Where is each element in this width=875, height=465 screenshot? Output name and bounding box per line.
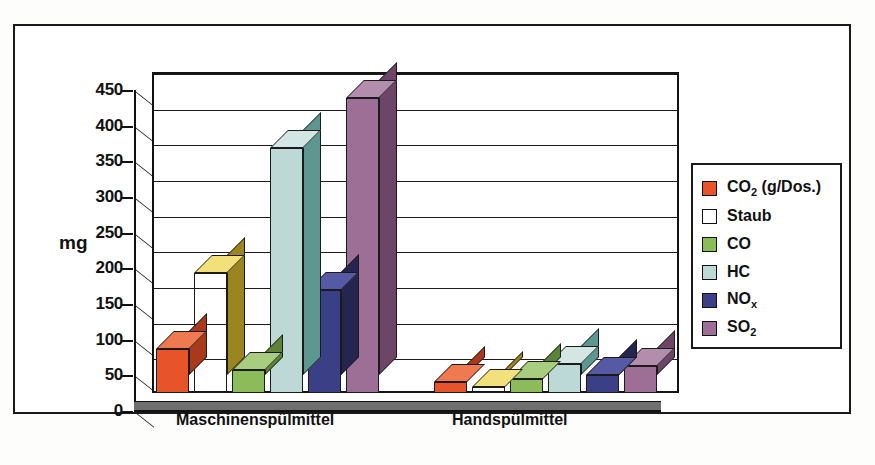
legend-label: SO2 bbox=[727, 318, 756, 338]
bar-series-group bbox=[134, 72, 679, 411]
legend-swatch-icon bbox=[702, 181, 717, 196]
bar-front-face bbox=[156, 349, 189, 393]
plot-floor bbox=[134, 393, 679, 411]
legend-label: CO2 (g/Dos.) bbox=[727, 178, 821, 198]
legend-label: NOx bbox=[727, 290, 757, 310]
plot-area bbox=[134, 72, 692, 406]
bar-side-face bbox=[379, 62, 397, 375]
legend-label: CO bbox=[727, 235, 751, 253]
axis-rung bbox=[134, 411, 154, 428]
y-tick-mark bbox=[122, 304, 133, 306]
legend-item[interactable]: CO bbox=[702, 230, 840, 258]
chart-legend: CO2 (g/Dos.)StaubCOHCNOxSO2 bbox=[691, 163, 842, 349]
legend-swatch-icon bbox=[702, 237, 717, 252]
bar-front-face bbox=[434, 382, 467, 393]
y-tick-label: 300 bbox=[96, 187, 123, 207]
y-tick-label: 100 bbox=[96, 330, 123, 350]
bar bbox=[232, 370, 265, 393]
legend-item[interactable]: HC bbox=[702, 258, 840, 286]
y-tick-mark bbox=[122, 375, 133, 377]
bar-front-face bbox=[510, 379, 543, 393]
bar-side-face bbox=[303, 112, 321, 375]
y-tick-label: 50 bbox=[105, 365, 123, 385]
bar bbox=[434, 382, 467, 393]
bar bbox=[156, 349, 189, 393]
x-category-label: Handspülmittel bbox=[452, 411, 568, 429]
y-tick-mark bbox=[122, 126, 133, 128]
bar bbox=[472, 387, 505, 393]
legend-item[interactable]: Staub bbox=[702, 202, 840, 230]
bar bbox=[586, 375, 619, 393]
y-tick-label: 350 bbox=[96, 151, 123, 171]
y-tick-label: 400 bbox=[96, 116, 123, 136]
bar-front-face bbox=[232, 370, 265, 393]
y-tick-label: 250 bbox=[96, 223, 123, 243]
bar-front-face bbox=[586, 375, 619, 393]
bar bbox=[510, 379, 543, 393]
y-axis-tick-labels: 050100150200250300350400450 bbox=[55, 66, 133, 414]
y-tick-mark bbox=[122, 90, 133, 92]
legend-item[interactable]: NOx bbox=[702, 286, 840, 314]
x-category-label: Maschinenspülmittel bbox=[176, 411, 334, 429]
y-tick-mark bbox=[122, 411, 133, 413]
y-tick-label: 450 bbox=[96, 80, 123, 100]
y-tick-label: 200 bbox=[96, 258, 123, 278]
legend-label: Staub bbox=[727, 207, 771, 225]
bar-top-face bbox=[434, 364, 485, 382]
y-tick-label: 150 bbox=[96, 294, 123, 314]
y-tick-mark bbox=[122, 197, 133, 199]
chart-figure: mg 050100150200250300350400450 Maschinen… bbox=[0, 0, 875, 465]
legend-item[interactable]: SO2 bbox=[702, 314, 840, 342]
bar-front-face bbox=[624, 366, 657, 393]
bar-front-face bbox=[472, 387, 505, 393]
legend-swatch-icon bbox=[702, 209, 717, 224]
y-tick-mark bbox=[122, 161, 133, 163]
figure-frame: mg 050100150200250300350400450 Maschinen… bbox=[13, 24, 851, 414]
legend-swatch-icon bbox=[702, 265, 717, 280]
legend-item[interactable]: CO2 (g/Dos.) bbox=[702, 174, 840, 202]
y-tick-mark bbox=[122, 233, 133, 235]
legend-swatch-icon bbox=[702, 293, 717, 308]
legend-label: HC bbox=[727, 263, 750, 281]
legend-swatch-icon bbox=[702, 321, 717, 336]
y-tick-mark bbox=[122, 340, 133, 342]
y-tick-mark bbox=[122, 268, 133, 270]
bar bbox=[624, 366, 657, 393]
